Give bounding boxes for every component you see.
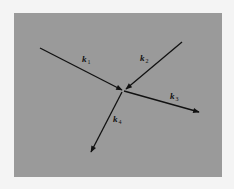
wave-vector-diagram: k1 k2 k3 k4 — [0, 0, 234, 189]
diagram-panel — [14, 13, 222, 177]
